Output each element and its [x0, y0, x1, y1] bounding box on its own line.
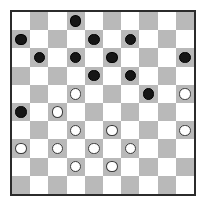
board-square[interactable] — [48, 103, 66, 121]
board-square[interactable] — [176, 139, 194, 157]
black-piece[interactable] — [106, 52, 117, 63]
board-square[interactable] — [176, 30, 194, 48]
board-square[interactable] — [67, 176, 85, 194]
black-piece[interactable] — [125, 34, 136, 45]
board-square[interactable] — [139, 12, 157, 30]
board-square[interactable] — [121, 176, 139, 194]
black-piece[interactable] — [15, 106, 26, 117]
board-square[interactable] — [139, 85, 157, 103]
board-square[interactable] — [103, 85, 121, 103]
black-piece[interactable] — [88, 34, 99, 45]
board-square[interactable] — [67, 67, 85, 85]
board-square[interactable] — [48, 121, 66, 139]
board-square[interactable] — [139, 158, 157, 176]
white-piece[interactable] — [106, 125, 117, 136]
board-square[interactable] — [176, 121, 194, 139]
board-square[interactable] — [103, 48, 121, 66]
black-piece[interactable] — [70, 15, 81, 26]
board-square[interactable] — [48, 176, 66, 194]
board-square[interactable] — [85, 85, 103, 103]
board-square[interactable] — [158, 12, 176, 30]
board-square[interactable] — [85, 48, 103, 66]
board-square[interactable] — [12, 12, 30, 30]
white-piece[interactable] — [52, 143, 63, 154]
board-square[interactable] — [85, 139, 103, 157]
black-piece[interactable] — [88, 70, 99, 81]
board-square[interactable] — [158, 158, 176, 176]
board-square[interactable] — [103, 103, 121, 121]
checkers-board[interactable] — [10, 10, 196, 196]
board-square[interactable] — [158, 103, 176, 121]
board-square[interactable] — [30, 85, 48, 103]
board-square[interactable] — [103, 176, 121, 194]
black-piece[interactable] — [143, 88, 154, 99]
board-square[interactable] — [85, 158, 103, 176]
board-square[interactable] — [30, 12, 48, 30]
white-piece[interactable] — [70, 88, 81, 99]
white-piece[interactable] — [179, 125, 190, 136]
board-square[interactable] — [176, 176, 194, 194]
board-square[interactable] — [30, 103, 48, 121]
board-square[interactable] — [121, 12, 139, 30]
board-square[interactable] — [48, 12, 66, 30]
white-piece[interactable] — [125, 143, 136, 154]
board-square[interactable] — [48, 30, 66, 48]
board-square[interactable] — [158, 121, 176, 139]
board-square[interactable] — [103, 139, 121, 157]
board-square[interactable] — [85, 176, 103, 194]
board-square[interactable] — [30, 139, 48, 157]
white-piece[interactable] — [106, 161, 117, 172]
board-square[interactable] — [139, 30, 157, 48]
board-square[interactable] — [176, 48, 194, 66]
board-square[interactable] — [121, 103, 139, 121]
board-square[interactable] — [12, 48, 30, 66]
white-piece[interactable] — [52, 106, 63, 117]
board-square[interactable] — [176, 103, 194, 121]
board-square[interactable] — [85, 12, 103, 30]
board-square[interactable] — [30, 30, 48, 48]
board-square[interactable] — [121, 139, 139, 157]
white-piece[interactable] — [70, 125, 81, 136]
white-piece[interactable] — [15, 143, 26, 154]
board-square[interactable] — [85, 67, 103, 85]
board-square[interactable] — [12, 158, 30, 176]
board-square[interactable] — [103, 121, 121, 139]
board-square[interactable] — [158, 30, 176, 48]
board-square[interactable] — [48, 139, 66, 157]
board-square[interactable] — [139, 139, 157, 157]
board-square[interactable] — [48, 158, 66, 176]
black-piece[interactable] — [125, 70, 136, 81]
board-square[interactable] — [12, 30, 30, 48]
board-square[interactable] — [67, 12, 85, 30]
board-square[interactable] — [176, 67, 194, 85]
board-square[interactable] — [158, 85, 176, 103]
board-square[interactable] — [103, 67, 121, 85]
board-square[interactable] — [67, 85, 85, 103]
board-square[interactable] — [139, 121, 157, 139]
board-square[interactable] — [12, 176, 30, 194]
white-piece[interactable] — [70, 161, 81, 172]
board-square[interactable] — [30, 67, 48, 85]
board-square[interactable] — [158, 48, 176, 66]
board-square[interactable] — [85, 30, 103, 48]
board-square[interactable] — [176, 85, 194, 103]
board-square[interactable] — [139, 67, 157, 85]
board-square[interactable] — [139, 48, 157, 66]
board-square[interactable] — [158, 139, 176, 157]
board-square[interactable] — [121, 67, 139, 85]
board-square[interactable] — [103, 158, 121, 176]
board-square[interactable] — [12, 121, 30, 139]
black-piece[interactable] — [70, 52, 81, 63]
board-square[interactable] — [121, 30, 139, 48]
white-piece[interactable] — [88, 143, 99, 154]
board-square[interactable] — [121, 121, 139, 139]
white-piece[interactable] — [179, 88, 190, 99]
board-square[interactable] — [139, 103, 157, 121]
board-square[interactable] — [67, 48, 85, 66]
black-piece[interactable] — [15, 34, 26, 45]
board-square[interactable] — [158, 176, 176, 194]
board-square[interactable] — [12, 67, 30, 85]
board-square[interactable] — [158, 67, 176, 85]
board-square[interactable] — [30, 48, 48, 66]
board-square[interactable] — [103, 30, 121, 48]
